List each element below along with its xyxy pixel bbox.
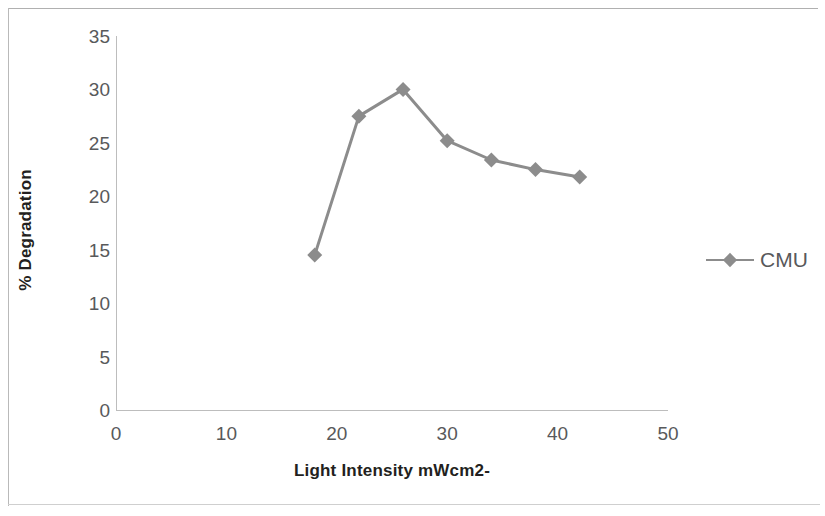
chart-figure: 05101520253035 01020304050 Light Intensi… xyxy=(0,0,825,516)
data-point-marker xyxy=(307,248,322,263)
data-series-cmu xyxy=(0,0,825,516)
data-point-marker xyxy=(572,170,587,185)
data-point-marker xyxy=(484,152,499,167)
data-point-marker xyxy=(351,109,366,124)
data-point-marker xyxy=(528,162,543,177)
y-axis-title: % Degradation xyxy=(16,120,36,340)
legend-label-cmu: CMU xyxy=(760,249,808,270)
chart-legend: CMU xyxy=(706,249,808,270)
x-axis-title: Light Intensity mWcm2- xyxy=(116,461,668,481)
diamond-marker-icon xyxy=(723,252,737,266)
legend-swatch-cmu xyxy=(706,253,754,267)
